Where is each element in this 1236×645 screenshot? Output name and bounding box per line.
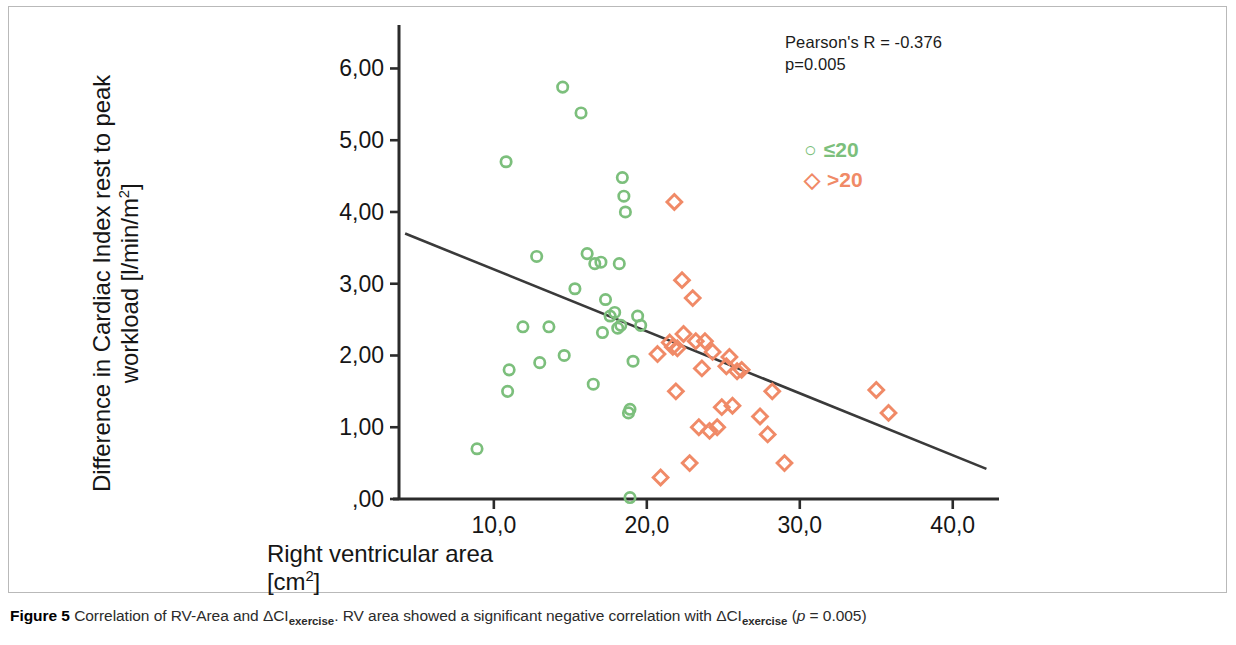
pearson-r-text: Pearson's R = -0.376 [785,31,942,53]
data-point-circle [518,322,528,332]
data-point-diamond [777,456,792,471]
x-axis-title-line1: Right ventricular area [267,540,493,567]
data-point-circle [576,108,586,118]
x-tick-label: 40,0 [930,512,975,538]
legend: ○ ≤20 ◇ >20 [804,135,863,195]
legend-item-gt20: ◇ >20 [804,165,863,195]
data-point-diamond [682,456,697,471]
y-axis-title: Difference in Cardiac Index rest to peak… [88,48,145,518]
x-axis-title-line2: [cm2] [267,568,320,595]
legend-item-le20-label: ≤20 [824,135,859,165]
data-point-circle [570,284,580,294]
series-diamond-open [650,195,896,485]
y-tick-label: 6,00 [339,55,384,81]
data-point-circle [501,157,511,167]
figure-caption-label: Figure 5 [10,607,70,624]
stats-annotation: Pearson's R = -0.376 p=0.005 [785,31,942,76]
data-point-diamond [869,383,884,398]
caption-sub-1: exercise [289,615,335,627]
p-value-text: p=0.005 [785,53,942,75]
caption-part-1: Correlation of RV-Area and ΔCI [70,607,289,624]
y-tick-label: 5,00 [339,127,384,153]
caption-part-2: . RV area showed a significant negative … [334,607,742,624]
data-point-diamond [753,409,768,424]
data-point-diamond [685,291,700,306]
data-point-circle [504,365,514,375]
data-point-circle [628,356,638,366]
x-axis-title: Right ventricular area[cm2] [267,540,493,597]
x-tick-label: 10,0 [471,512,516,538]
data-point-diamond [667,195,682,210]
y-axis-title-line2: workload [l/min/m2] [116,183,143,383]
figure-container: ,001,002,003,004,005,006,0010,020,030,04… [0,0,1236,645]
data-point-circle [597,327,607,337]
data-point-circle [535,357,545,367]
figure-plate: ,001,002,003,004,005,006,0010,020,030,04… [8,6,1227,593]
data-point-diamond [653,470,668,485]
x-tick-label: 30,0 [777,512,822,538]
data-point-circle [472,444,482,454]
data-point-circle [557,82,567,92]
data-point-circle [559,350,569,360]
legend-item-gt20-label: >20 [827,165,863,195]
series-circle-open [472,82,646,503]
y-tick-label: ,00 [352,486,384,512]
data-point-circle [588,379,598,389]
data-point-diamond [881,405,896,420]
data-point-circle [620,207,630,217]
data-point-circle [614,258,624,268]
data-point-diamond [668,384,683,399]
data-point-circle [619,191,629,201]
scatter-plot: ,001,002,003,004,005,006,0010,020,030,04… [9,7,1228,594]
data-point-circle [531,251,541,261]
data-point-circle [617,172,627,182]
caption-sub-2: exercise [742,615,788,627]
y-tick-label: 3,00 [339,271,384,297]
data-point-diamond [765,384,780,399]
y-tick-label: 2,00 [339,342,384,368]
data-point-circle [582,248,592,258]
legend-item-le20: ○ ≤20 [804,135,863,165]
data-point-circle [600,294,610,304]
caption-part-3: ( [787,607,796,624]
data-point-diamond [760,427,775,442]
x-tick-label: 20,0 [624,512,669,538]
y-tick-label: 1,00 [339,414,384,440]
y-tick-label: 4,00 [339,199,384,225]
caption-part-4: = 0.005) [805,607,866,624]
figure-caption: Figure 5 Correlation of RV-Area and ΔCIe… [10,606,1226,630]
diamond-open-icon: ◇ [804,165,820,195]
data-point-circle [502,386,512,396]
data-point-diamond [675,273,690,288]
data-point-circle [544,322,554,332]
y-axis-title-line1: Difference in Cardiac Index rest to peak [88,75,115,492]
circle-open-icon: ○ [804,135,817,165]
data-point-diamond [694,361,709,376]
data-point-diamond [650,347,665,362]
